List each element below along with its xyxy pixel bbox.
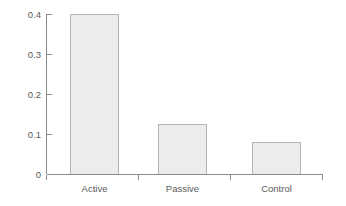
bar-passive[interactable]	[159, 125, 207, 175]
chart-background	[0, 0, 346, 206]
x-axis-category-label: Control	[261, 183, 292, 194]
x-axis-category-label: Passive	[166, 183, 199, 194]
y-axis-tick-label: 0	[36, 169, 41, 180]
bar-active[interactable]	[71, 15, 119, 175]
bar-control[interactable]	[253, 143, 301, 175]
y-axis-tick-label: 0.2	[28, 89, 41, 100]
chart-canvas: 0.4 0.3 0.2 0.1 0 Active Passive Control	[0, 0, 346, 206]
x-axis-category-label: Active	[82, 183, 108, 194]
y-axis-tick-label: 0.1	[28, 129, 41, 140]
y-axis-tick-label: 0.3	[28, 49, 41, 60]
y-axis-tick-label: 0.4	[28, 9, 41, 20]
bar-chart-figure: 0.4 0.3 0.2 0.1 0 Active Passive Control	[0, 0, 346, 206]
